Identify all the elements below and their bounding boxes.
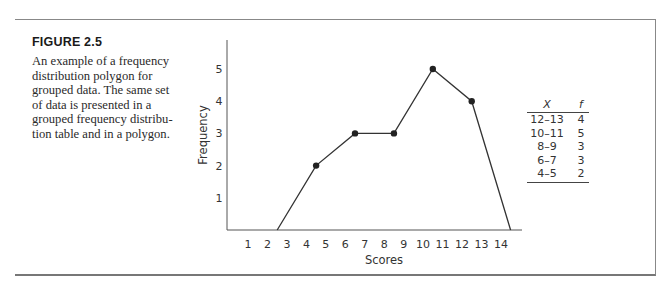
x-tick-label: 14 — [494, 238, 508, 251]
x-tick-label: 10 — [416, 238, 430, 251]
data-point-marker — [391, 130, 397, 136]
table-header: X f — [527, 98, 589, 113]
table-row: 12–13 4 — [527, 113, 589, 127]
chart-axes — [227, 40, 522, 230]
table-row: 8–9 3 — [527, 140, 589, 154]
cell-x: 4–5 — [527, 167, 567, 181]
table-row: 10–11 5 — [527, 127, 589, 141]
x-tick-label: 9 — [400, 238, 407, 251]
polygon-series — [277, 66, 510, 230]
table-row: 4–5 2 — [527, 167, 589, 181]
data-point-marker — [352, 130, 358, 136]
table-bottom-rule — [527, 182, 589, 183]
x-tick-label: 11 — [436, 238, 450, 251]
cell-x: 6–7 — [527, 154, 567, 168]
header-x: X — [527, 98, 567, 112]
cell-x: 10–11 — [527, 127, 567, 141]
y-tick-label: 4 — [216, 95, 223, 108]
cell-x: 12–13 — [527, 113, 567, 127]
header-f: f — [573, 98, 589, 112]
x-tick-label: 12 — [455, 238, 469, 251]
x-tick-label: 3 — [283, 238, 290, 251]
data-point-marker — [469, 98, 475, 104]
y-tick-labels: 12345 — [216, 63, 223, 205]
y-tick-label: 3 — [216, 127, 223, 140]
cell-f: 5 — [573, 127, 589, 141]
y-tick-label: 1 — [216, 192, 223, 205]
data-point-marker — [313, 162, 319, 168]
x-tick-label: 2 — [264, 238, 271, 251]
cell-f: 2 — [573, 167, 589, 181]
polygon-line — [277, 69, 510, 230]
table-row: 6–7 3 — [527, 154, 589, 168]
frequency-table: X f 12–13 4 10–11 5 8–9 3 6–7 3 4–5 2 — [527, 98, 589, 183]
x-tick-label: 8 — [381, 238, 388, 251]
cell-f: 4 — [573, 113, 589, 127]
x-tick-labels: 1234567891011121314 — [245, 238, 508, 251]
x-tick-label: 5 — [322, 238, 329, 251]
cell-f: 3 — [573, 140, 589, 154]
y-tick-label: 2 — [216, 160, 223, 173]
x-tick-label: 7 — [361, 238, 368, 251]
x-axis-label: Scores — [365, 253, 403, 267]
x-tick-label: 6 — [342, 238, 349, 251]
data-point-marker — [430, 66, 436, 72]
x-tick-label: 4 — [303, 238, 310, 251]
x-tick-label: 1 — [245, 238, 252, 251]
y-axis-label: Frequency — [196, 105, 210, 165]
x-tick-label: 13 — [474, 238, 488, 251]
cell-f: 3 — [573, 154, 589, 168]
cell-x: 8–9 — [527, 140, 567, 154]
y-tick-label: 5 — [216, 63, 223, 76]
